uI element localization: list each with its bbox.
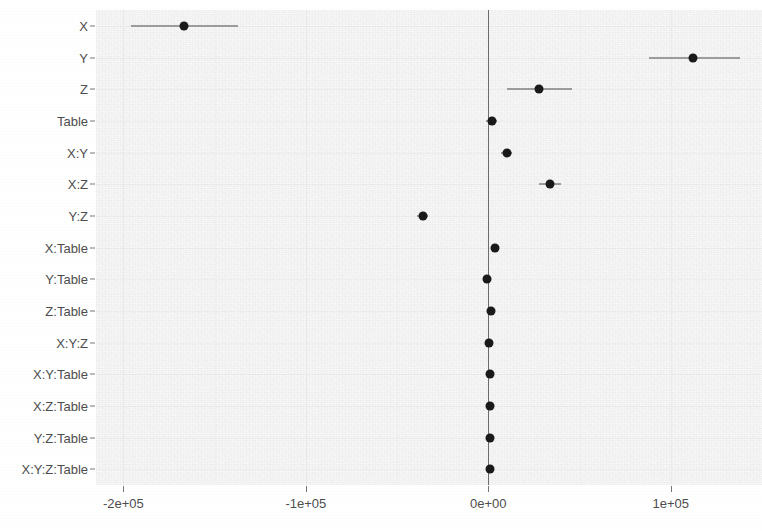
y-axis-tick-mark	[90, 57, 95, 58]
y-axis-tick-mark	[90, 25, 95, 26]
gridline-horizontal	[96, 406, 762, 407]
gridline-horizontal	[96, 374, 762, 375]
y-axis-tick-label: X:Table	[45, 240, 88, 255]
x-axis-tick-mark	[488, 486, 489, 492]
data-point	[487, 116, 496, 125]
plot-panel	[96, 10, 762, 485]
y-axis-tick-label: Table	[57, 113, 88, 128]
y-axis-tick-mark	[90, 215, 95, 216]
data-point	[535, 85, 544, 94]
gridline-horizontal	[96, 184, 762, 185]
y-axis-tick-label: X:Y:Z:Table	[22, 462, 88, 477]
gridline-horizontal	[96, 438, 762, 439]
y-axis-tick-label: X:Y:Z	[56, 335, 88, 350]
y-axis-tick-label: X:Y	[67, 145, 88, 160]
data-point	[546, 180, 555, 189]
y-axis-tick-mark	[90, 279, 95, 280]
data-point	[688, 53, 697, 62]
gridline-horizontal	[96, 216, 762, 217]
y-axis-tick-mark	[90, 89, 95, 90]
y-axis-tick-label: X	[79, 18, 88, 33]
y-axis-tick-label: Z	[80, 82, 88, 97]
y-axis-tick-label: Y:Z	[68, 208, 88, 223]
y-axis-tick-label: X:Z	[68, 177, 88, 192]
data-point	[418, 211, 427, 220]
x-axis-tick-mark	[671, 486, 672, 492]
gridline-horizontal	[96, 469, 762, 470]
y-axis-tick-mark	[90, 405, 95, 406]
data-point	[486, 401, 495, 410]
y-axis-tick-label: Z:Table	[45, 303, 88, 318]
zero-reference-line	[488, 10, 489, 485]
data-point	[179, 21, 188, 30]
data-point	[483, 275, 492, 284]
y-axis-tick-mark	[90, 184, 95, 185]
data-point	[502, 148, 511, 157]
y-axis-tick-mark	[90, 469, 95, 470]
data-point	[485, 338, 494, 347]
gridline-horizontal	[96, 343, 762, 344]
y-axis-tick-mark	[90, 152, 95, 153]
data-point	[487, 306, 496, 315]
x-axis-tick-label: -1e+05	[285, 496, 326, 511]
y-axis-tick-label: X:Z:Table	[33, 398, 88, 413]
y-axis-tick-mark	[90, 310, 95, 311]
y-axis-tick-label: Y:Z:Table	[34, 430, 88, 445]
coefficient-plot-figure: XYZTableX:YX:ZY:ZX:TableY:TableZ:TableX:…	[0, 0, 762, 531]
x-axis-tick-label: -2e+05	[103, 496, 144, 511]
x-axis-tick-mark	[306, 486, 307, 492]
y-axis-tick-mark	[90, 342, 95, 343]
gridline-horizontal	[96, 279, 762, 280]
y-axis-tick-mark	[90, 120, 95, 121]
x-axis-tick-mark	[123, 486, 124, 492]
y-axis-tick-label: X:Y:Table	[33, 367, 88, 382]
y-axis-tick-mark	[90, 374, 95, 375]
data-point	[486, 465, 495, 474]
gridline-horizontal	[96, 153, 762, 154]
gridline-horizontal	[96, 248, 762, 249]
x-axis-tick-label: 0e+00	[470, 496, 507, 511]
y-axis-tick-label: Y	[79, 50, 88, 65]
y-axis-tick-mark	[90, 437, 95, 438]
data-point	[485, 433, 494, 442]
data-point	[490, 243, 499, 252]
gridline-horizontal	[96, 89, 762, 90]
data-point	[486, 370, 495, 379]
y-axis-tick-label: Y:Table	[45, 272, 88, 287]
y-axis-tick-mark	[90, 247, 95, 248]
x-axis-tick-label: 1e+05	[653, 496, 690, 511]
gridline-horizontal	[96, 311, 762, 312]
gridline-horizontal	[96, 121, 762, 122]
